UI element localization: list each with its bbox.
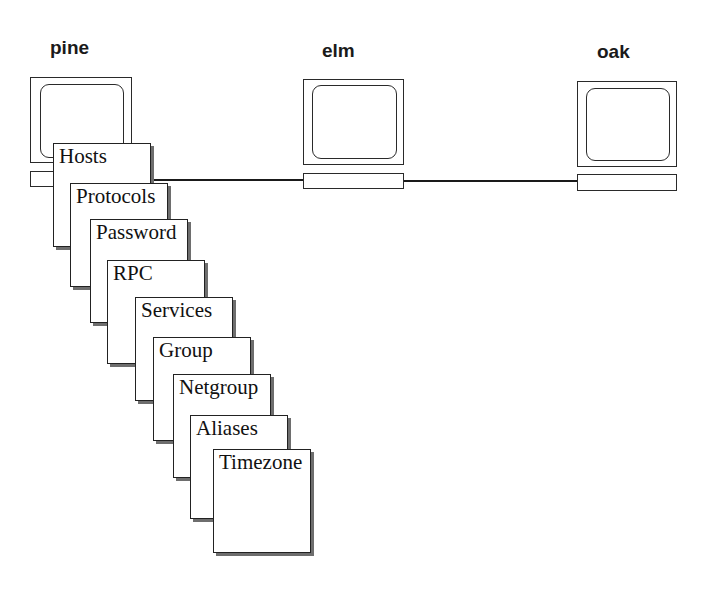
network-diagram: pine elm oak Hosts Protocols Password RP…: [0, 0, 708, 591]
card-label: Timezone: [214, 450, 310, 473]
network-line-elm-oak: [404, 180, 577, 182]
keyboard-icon: [303, 173, 404, 189]
keyboard-icon: [577, 174, 677, 191]
card-label: Hosts: [54, 144, 150, 167]
card-label: Aliases: [191, 416, 287, 439]
card-label: Netgroup: [174, 375, 270, 398]
monitor-icon: [303, 79, 404, 165]
map-card-timezone: Timezone: [213, 449, 311, 553]
screen-icon: [586, 88, 670, 161]
monitor-icon: [577, 81, 677, 167]
network-line-pine-elm: [132, 179, 303, 181]
card-label: RPC: [108, 261, 204, 284]
host-label-pine: pine: [50, 38, 89, 57]
host-label-elm: elm: [322, 41, 355, 60]
host-label-oak: oak: [597, 42, 630, 61]
screen-icon: [312, 85, 397, 159]
card-label: Group: [154, 338, 250, 361]
card-label: Services: [136, 298, 232, 321]
card-label: Password: [91, 220, 187, 243]
card-label: Protocols: [71, 184, 167, 207]
